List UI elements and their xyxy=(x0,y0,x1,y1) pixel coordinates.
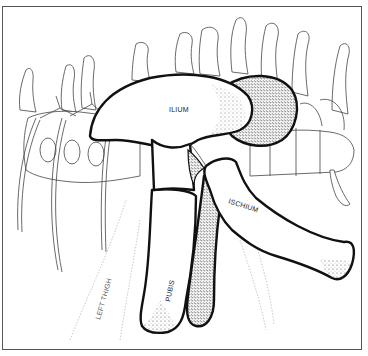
neural-spine xyxy=(199,27,220,76)
thigh-line xyxy=(120,220,140,340)
neural-spine xyxy=(175,32,194,74)
neural-spine xyxy=(81,56,96,110)
pubis-neck xyxy=(152,140,194,190)
pelvis-illustration: ILIUM ISCHIUM PUBIS LEFT THIGH xyxy=(0,0,368,356)
neural-spine xyxy=(231,18,248,74)
ischium-shading xyxy=(320,258,352,279)
neural-spine xyxy=(19,68,36,112)
neural-spine xyxy=(261,23,278,84)
label-left-thigh: LEFT THIGH xyxy=(94,277,112,320)
label-ilium: ILIUM xyxy=(169,106,189,113)
neural-spine xyxy=(61,65,76,112)
neural-spine xyxy=(292,31,309,96)
neural-spine xyxy=(332,44,349,114)
thigh-line xyxy=(240,240,266,330)
caudal-process xyxy=(330,170,350,206)
neural-spine xyxy=(132,42,150,82)
